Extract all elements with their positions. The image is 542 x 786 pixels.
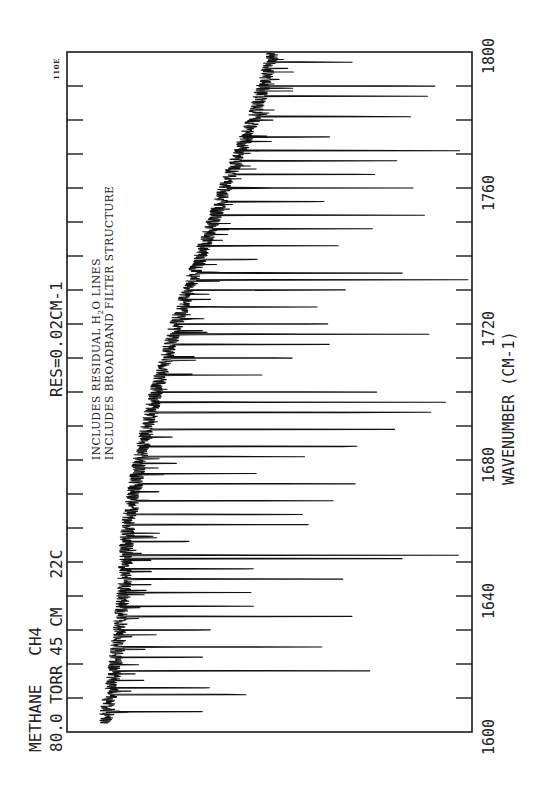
tick-label-1680: 1680 — [480, 447, 498, 483]
corner-code-label: 110E — [52, 58, 61, 80]
resolution-label: RES=0.02CM-1 — [47, 281, 66, 397]
sample-name-label: METHANE CH4 — [26, 627, 45, 752]
tick-label-1720: 1720 — [480, 311, 498, 347]
absorption-spectrum-trace — [100, 53, 468, 723]
note-broadband-filter: INCLUDES BROADBAND FILTER STRUCTURE — [103, 185, 115, 460]
tick-label-1800: 1800 — [480, 38, 498, 74]
note-text: O LINES — [90, 258, 102, 309]
tick-label-1760: 1760 — [480, 175, 498, 211]
spectrum-plot — [0, 0, 542, 786]
sample-conditions-label: 80.0 TORR 45 CM 22C — [47, 550, 66, 752]
note-text: INCLUDES RESIDUAL H — [90, 314, 102, 460]
x-axis-title: WAVENUMBER (CM-1) — [500, 331, 518, 485]
tick-label-1600: 1600 — [480, 719, 498, 755]
tick-label-1640: 1640 — [480, 583, 498, 619]
